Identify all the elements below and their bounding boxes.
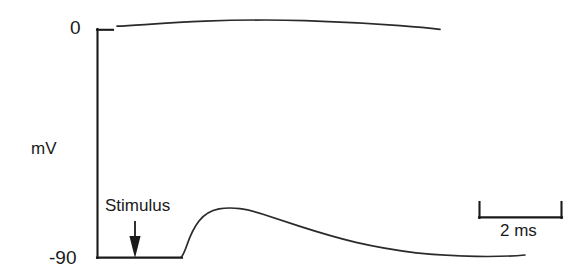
stimulus-annotation-label: Stimulus [105,197,170,214]
stimulus-arrow-icon [129,236,140,258]
scale-bar-label: 2 ms [500,222,537,239]
lower-trace-action-potential [181,208,525,257]
y-axis-label-zero: 0 [70,18,81,37]
scale-bar-bracket [479,202,562,218]
upper-trace-zero-mv [117,20,440,29]
plot-canvas [0,0,584,276]
y-axis-label-minus-ninety: -90 [49,248,76,267]
action-potential-figure: 0 -90 mV Stimulus 2 ms [0,0,584,276]
y-axis-title: mV [31,140,57,157]
